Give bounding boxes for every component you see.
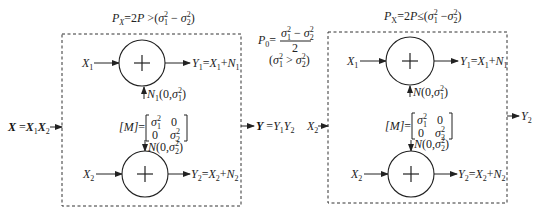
svg-text:X2: X2 [350,167,362,183]
left-top-noise-label: N1(0,σ21) [146,86,186,103]
left-bottom-input-label: X2 [82,167,94,183]
svg-text:N(0,σ22): N(0,σ22) [413,136,449,153]
right-input-label: X2 [306,119,318,135]
left-top-output-label: Y1=X1+N1 [192,56,240,72]
middle-threshold-formula: P0= σ21 − σ22 2 (σ21 > σ22) [257,25,314,69]
right-panel-title: PX=2P≤(σ21 −σ22) [383,8,461,25]
svg-text:σ21 − σ22: σ21 − σ22 [281,25,314,42]
svg-text:Y1=X1+N1: Y1=X1+N1 [460,54,508,70]
left-top-adder: X1 Y1=X1+N1 N1(0,σ21) [81,40,240,103]
right-top-adder: X1 Y1=X1+N1 N(0,σ21) [346,37,508,101]
svg-text:P0=: P0= [257,33,276,49]
right-bottom-adder: N(0,σ22) X2 Y2=X2+N2 [350,136,506,197]
formula-condition: (σ21 > σ22) [269,52,310,69]
channel-diagram: PX=2P >(σ21 − σ22) X =X1X2 Y =Y1Y2 X1 Y1… [0,0,539,219]
svg-text:X1: X1 [346,54,358,70]
svg-text:[M]=: [M]= [385,119,411,133]
left-input-label: X =X1X2 [7,120,50,136]
left-top-input-label: X1 [81,56,93,72]
left-output-label: Y =Y1Y2 [256,119,295,135]
svg-text:N(0,σ21): N(0,σ21) [412,84,448,101]
right-panel: PX=2P≤(σ21 −σ22) X2 Y2 X1 Y1=X1+N1 N(0,σ… [306,8,532,203]
left-bottom-output-label: Y2=X2+N2 [191,167,239,183]
svg-text:Y2=X2+N2: Y2=X2+N2 [458,167,506,183]
left-bottom-adder: N(0,σ22) X2 Y2=X2+N2 [82,139,239,197]
left-panel: PX=2P >(σ21 − σ22) X =X1X2 Y =Y1Y2 X1 Y1… [7,10,295,206]
svg-text:[M]=: [M]= [119,120,145,134]
right-output-label: Y2 [521,109,532,125]
left-panel-title: PX=2P >(σ21 − σ22) [111,10,195,27]
